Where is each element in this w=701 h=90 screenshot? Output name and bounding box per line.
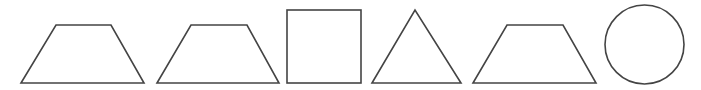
shapes-diagram [0, 0, 701, 90]
circle-shape [605, 5, 684, 84]
trapezoid-shape-3 [473, 25, 596, 83]
square-shape [287, 10, 361, 83]
trapezoid-shape-1 [21, 25, 144, 83]
trapezoid-shape-2 [157, 25, 279, 83]
triangle-shape [372, 10, 461, 83]
